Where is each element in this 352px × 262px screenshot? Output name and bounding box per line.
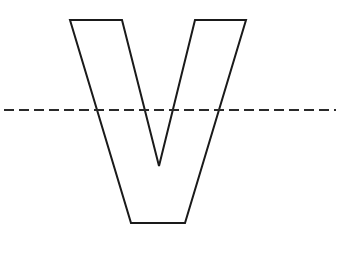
letter-v-outline — [70, 20, 246, 223]
diagram-canvas — [0, 0, 352, 262]
diagram-svg — [0, 0, 352, 262]
